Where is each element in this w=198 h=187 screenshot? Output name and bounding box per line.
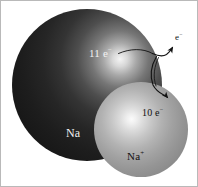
atom-electron-charge-sign: − bbox=[108, 46, 112, 53]
ion-electron-count-text: 10 e bbox=[142, 107, 160, 118]
free-electron-label: e− bbox=[175, 33, 183, 42]
sodium-ion-charge-sign: + bbox=[140, 149, 144, 156]
sodium-ion-label: Na+ bbox=[127, 151, 144, 162]
atom-electron-count-label: 11 e− bbox=[89, 48, 112, 59]
sodium-ion-sphere bbox=[94, 82, 188, 177]
atom-electron-count-text: 11 e bbox=[89, 47, 108, 59]
sodium-atom-symbol: Na bbox=[66, 126, 80, 140]
free-electron-charge-sign: − bbox=[179, 31, 182, 37]
sodium-ionization-figure: 11 e− Na 10 e− Na+ e− bbox=[0, 0, 198, 187]
ion-electron-charge-sign: − bbox=[160, 106, 164, 113]
sodium-ion-symbol: Na bbox=[127, 150, 140, 162]
sodium-atom-label: Na bbox=[66, 127, 80, 139]
ion-electron-count-label: 10 e− bbox=[142, 108, 163, 118]
